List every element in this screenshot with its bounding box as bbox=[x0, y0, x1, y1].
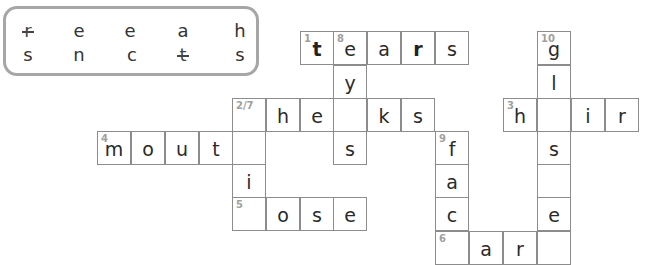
clue-number: 4 bbox=[101, 133, 108, 144]
crossword-cell[interactable]: t bbox=[199, 131, 233, 165]
cell-letter: o bbox=[142, 138, 154, 159]
crossword-cell[interactable]: l bbox=[537, 65, 571, 99]
cell-letter: a bbox=[446, 171, 458, 192]
clue-number: 1 bbox=[304, 33, 311, 44]
crossword-cell[interactable]: 3h bbox=[503, 98, 537, 132]
clue-number: 8 bbox=[337, 33, 344, 44]
cell-letter: a bbox=[378, 38, 390, 59]
crossword-cell[interactable] bbox=[333, 98, 367, 132]
crossword-cell[interactable]: a bbox=[367, 31, 401, 65]
clue-number: 6 bbox=[439, 233, 446, 244]
crossword-cell[interactable]: k bbox=[367, 98, 401, 132]
crossword-cell[interactable]: 4m bbox=[97, 131, 131, 165]
cell-letter: f bbox=[449, 138, 456, 159]
cell-letter: t bbox=[212, 138, 219, 159]
crossword-cell[interactable]: o bbox=[131, 131, 165, 165]
cell-letter: s bbox=[312, 204, 322, 225]
crossword-cell[interactable]: s bbox=[333, 131, 367, 165]
crossword-cell[interactable]: 6 bbox=[435, 231, 469, 265]
cell-letter: c bbox=[447, 204, 457, 225]
cell-letter: h bbox=[514, 105, 526, 126]
crossword-cell[interactable]: e bbox=[333, 197, 367, 231]
crossword-cell[interactable]: r bbox=[401, 31, 435, 65]
cell-letter: a bbox=[480, 238, 492, 259]
crossword-cell[interactable]: i bbox=[571, 98, 605, 132]
cell-letter: s bbox=[345, 138, 355, 159]
crossword-cell[interactable]: s bbox=[435, 31, 469, 65]
crossword-cell[interactable]: a bbox=[435, 164, 469, 198]
crossword-cell[interactable]: y bbox=[333, 65, 367, 99]
cell-letter: r bbox=[618, 105, 626, 126]
crossword-cell[interactable]: r bbox=[605, 98, 639, 132]
cell-letter: h bbox=[277, 105, 289, 126]
crossword-cell[interactable]: 1t bbox=[300, 31, 334, 65]
crossword-cell[interactable]: o bbox=[266, 197, 300, 231]
crossword-cell[interactable]: s bbox=[537, 131, 571, 165]
cell-letter: r bbox=[516, 238, 524, 259]
cell-letter: s bbox=[447, 38, 457, 59]
clue-number: 3 bbox=[507, 100, 514, 111]
crossword-cell[interactable] bbox=[537, 231, 571, 265]
crossword-cell[interactable]: s bbox=[401, 98, 435, 132]
crossword-cell[interactable]: h bbox=[266, 98, 300, 132]
crossword-cell[interactable]: c bbox=[435, 197, 469, 231]
cell-letter: u bbox=[176, 138, 188, 159]
cell-letter: i bbox=[246, 171, 251, 192]
crossword-cell[interactable]: a bbox=[469, 231, 503, 265]
cell-letter: k bbox=[378, 105, 389, 126]
clue-number: 9 bbox=[439, 133, 446, 144]
clue-number: 5 bbox=[236, 199, 243, 210]
crossword-cell[interactable] bbox=[232, 131, 266, 165]
cell-letter: l bbox=[551, 72, 556, 93]
crossword-cell[interactable]: r bbox=[503, 231, 537, 265]
cell-letter: o bbox=[277, 204, 289, 225]
crossword-cell[interactable]: 5 bbox=[232, 197, 266, 231]
clue-number: 2/7 bbox=[236, 100, 254, 111]
crossword-cell[interactable]: e bbox=[300, 98, 334, 132]
crossword-cell[interactable]: s bbox=[300, 197, 334, 231]
crossword-cell[interactable]: 8e bbox=[333, 31, 367, 65]
crossword-cell[interactable]: 2/7 bbox=[232, 98, 266, 132]
cell-letter: e bbox=[344, 38, 356, 59]
crossword-cell[interactable] bbox=[537, 98, 571, 132]
cell-letter: e bbox=[311, 105, 323, 126]
cell-letter: s bbox=[413, 105, 423, 126]
crossword-cell[interactable] bbox=[537, 164, 571, 198]
crossword-cell[interactable]: e bbox=[537, 197, 571, 231]
cell-letter: t bbox=[312, 38, 321, 59]
crossword-cell[interactable]: i bbox=[232, 164, 266, 198]
clue-number: 10 bbox=[541, 33, 555, 44]
crossword-cell[interactable]: 9f bbox=[435, 131, 469, 165]
cell-letter: e bbox=[548, 204, 560, 225]
cell-letter: s bbox=[549, 138, 559, 159]
crossword-cell[interactable]: u bbox=[165, 131, 199, 165]
cell-letter: r bbox=[413, 38, 422, 59]
cell-letter: y bbox=[344, 72, 355, 93]
crossword-cell[interactable]: 10g bbox=[537, 31, 571, 65]
cell-letter: i bbox=[585, 105, 590, 126]
cell-letter: e bbox=[344, 204, 356, 225]
